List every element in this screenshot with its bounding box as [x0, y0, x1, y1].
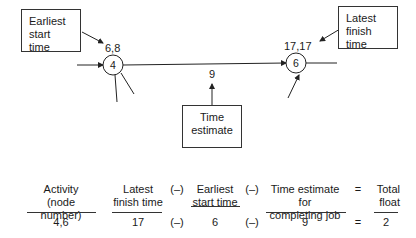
value-latest-finish: 17: [112, 216, 164, 229]
value-time-estimate: 9: [263, 216, 347, 229]
operator-minus: (–): [168, 216, 186, 229]
rule-latest-finish: [112, 212, 162, 213]
header-total-float: Total float: [372, 183, 400, 209]
callout-line: finish time: [346, 25, 390, 51]
header-latest-finish: Latest finish time: [112, 183, 164, 209]
header-line: start time: [190, 196, 240, 209]
callout-earliest-start: Earliest start time: [21, 9, 81, 52]
header-line: Activity: [26, 183, 96, 196]
callout-line: Latest: [346, 12, 390, 25]
rule-activity: [27, 212, 96, 213]
callout-latest-finish: Latest finish time: [338, 6, 398, 49]
operator-minus: (–): [168, 183, 186, 196]
header-line: Time estimate for: [263, 183, 347, 209]
value-total-float: 2: [374, 216, 398, 229]
rule-time-estimate: [266, 212, 346, 213]
callout-line: start time: [29, 28, 73, 54]
node-6-times: 17,17: [284, 40, 312, 53]
callout-line: Earliest: [29, 15, 73, 28]
value-earliest-start: 6: [190, 216, 240, 229]
node-6-label: 6: [286, 57, 306, 69]
value-activity: 4,6: [26, 216, 96, 229]
callout-line: estimate: [190, 124, 234, 137]
node-4-label: 4: [103, 59, 123, 71]
callout-time-estimate: Time estimate: [182, 105, 242, 148]
node-4-times: 6,8: [105, 42, 120, 55]
callout-line: Time: [190, 111, 234, 124]
operator-minus: (–): [243, 216, 261, 229]
header-line: float: [372, 196, 400, 209]
rule-earliest-start: [191, 206, 240, 207]
header-line: Total: [372, 183, 400, 196]
activity-duration: 9: [209, 68, 215, 81]
operator-minus: (–): [243, 183, 261, 196]
header-line: finish time: [112, 196, 164, 209]
operator-equals: =: [351, 216, 365, 229]
header-line: Latest: [112, 183, 164, 196]
rule-total-float: [374, 212, 398, 213]
operator-equals: =: [351, 183, 365, 196]
header-line: Earliest: [190, 183, 240, 196]
